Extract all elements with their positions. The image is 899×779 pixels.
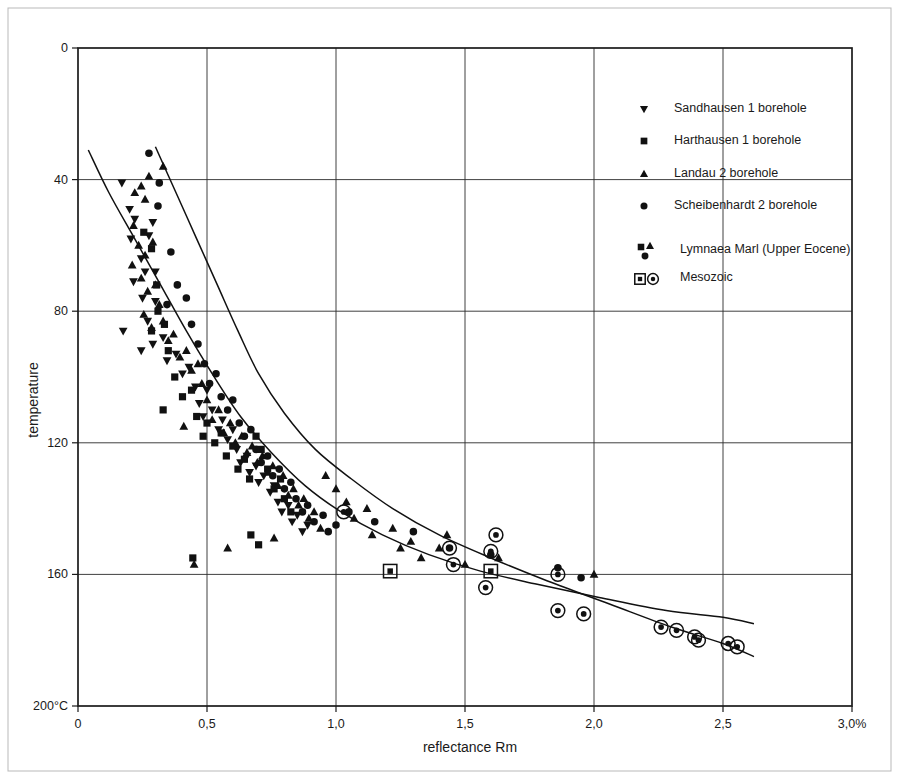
y-axis-title: temperature — [25, 362, 41, 438]
data-point — [211, 439, 218, 446]
y-tick-label: 120 — [47, 436, 68, 450]
data-point — [287, 508, 294, 515]
data-point — [193, 413, 200, 420]
data-point — [234, 466, 241, 473]
data-point — [371, 518, 379, 526]
y-tick-label: 0 — [61, 41, 68, 55]
x-tick-label: 2,5 — [714, 717, 731, 731]
x-tick-label: 1,5 — [456, 717, 473, 731]
data-point — [275, 465, 283, 473]
data-point — [410, 528, 418, 536]
data-point — [247, 531, 254, 538]
data-point — [160, 406, 167, 413]
legend-marker-icon — [638, 244, 645, 251]
legend-label: Lymnaea Marl (Upper Eocene) — [680, 242, 850, 256]
data-point — [269, 472, 277, 480]
legend-label: Landau 2 borehole — [674, 166, 778, 180]
data-point — [281, 485, 289, 493]
data-point — [179, 393, 186, 400]
data-point — [188, 321, 196, 329]
data-point — [304, 502, 312, 510]
data-point — [264, 452, 272, 460]
data-point — [200, 433, 207, 440]
data-point — [332, 521, 340, 529]
legend-label: Scheibenhardt 2 borehole — [674, 198, 817, 212]
x-tick-label: 3,0% — [838, 717, 867, 731]
legend-marker-icon — [640, 202, 647, 209]
data-point — [140, 229, 147, 236]
data-point — [224, 406, 232, 414]
x-tick-label: 2,0 — [585, 717, 602, 731]
data-point — [189, 554, 196, 561]
y-tick-label: 80 — [54, 304, 68, 318]
data-point — [217, 393, 225, 401]
data-point — [171, 373, 178, 380]
data-point — [206, 380, 214, 388]
data-point — [183, 294, 191, 302]
legend-marker-icon — [641, 138, 648, 145]
data-point — [174, 281, 182, 289]
data-point — [155, 179, 163, 187]
legend-marker-icon — [642, 253, 649, 260]
legend-label: Harthausen 1 borehole — [674, 133, 801, 147]
y-tick-label: 200°C — [33, 699, 68, 713]
data-point — [299, 508, 307, 516]
data-point — [145, 150, 153, 158]
data-point — [241, 432, 249, 440]
data-point — [188, 387, 195, 394]
x-tick-label: 0 — [75, 717, 82, 731]
data-point — [319, 511, 327, 519]
data-point — [577, 574, 585, 582]
x-tick-label: 1,0 — [327, 717, 344, 731]
legend-marker-icon — [651, 277, 655, 281]
x-tick-label: 0,5 — [198, 717, 215, 731]
figure-container: 00,51,01,52,02,53,0%04080120160200°C ref… — [0, 0, 899, 779]
data-point — [154, 202, 162, 210]
data-point — [324, 528, 332, 536]
x-axis-title: reflectance Rm — [423, 739, 517, 755]
data-point — [154, 308, 161, 315]
data-point — [255, 541, 262, 548]
data-point — [246, 475, 253, 482]
data-point — [292, 495, 300, 503]
data-point — [241, 456, 248, 463]
scatter-plot: 00,51,01,52,02,53,0%04080120160200°C ref… — [0, 0, 899, 779]
legend-label: Mesozoic — [680, 270, 733, 284]
legend-label: Sandhausen 1 borehole — [674, 101, 807, 115]
data-point — [257, 459, 265, 467]
data-point — [310, 518, 318, 526]
legend-marker-icon — [638, 277, 642, 281]
data-point — [235, 419, 243, 427]
y-tick-label: 40 — [54, 173, 68, 187]
data-point — [165, 347, 172, 354]
y-tick-label: 160 — [47, 567, 68, 581]
data-point — [252, 446, 260, 454]
data-point — [167, 248, 175, 256]
data-point — [148, 245, 155, 252]
data-point — [287, 479, 295, 487]
data-point — [223, 452, 230, 459]
page-background — [0, 0, 899, 779]
